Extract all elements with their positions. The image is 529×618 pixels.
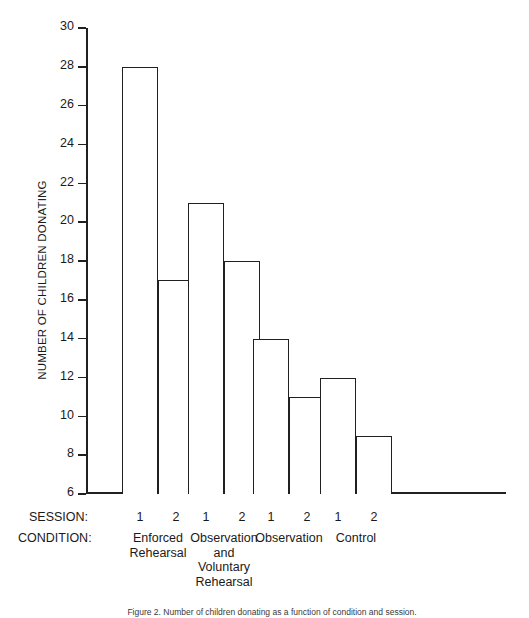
bar <box>356 436 392 494</box>
condition-label-line: and <box>164 546 284 561</box>
y-axis-tick: 16 <box>78 299 86 300</box>
y-axis-tick-label: 24 <box>60 136 74 150</box>
y-axis-tick-label: 10 <box>60 408 74 422</box>
session-number: 1 <box>194 510 218 524</box>
session-number: 2 <box>295 510 319 524</box>
y-axis-tick: 20 <box>78 221 86 222</box>
y-axis-tick-label: 26 <box>60 97 74 111</box>
x-axis-label-block: SESSION: CONDITION: 12121212 EnforcedReh… <box>0 502 529 602</box>
y-axis-tick-label: 16 <box>60 291 74 305</box>
y-axis-tick-label: 14 <box>60 330 74 344</box>
session-number: 2 <box>164 510 188 524</box>
y-axis-tick-label: 6 <box>67 485 74 499</box>
y-axis-tick: 26 <box>78 105 86 106</box>
session-number: 2 <box>230 510 254 524</box>
y-axis-tick: 6 <box>78 493 86 494</box>
y-axis-title: NUMBER OF CHILDREN DONATING <box>36 120 48 440</box>
y-axis-tick: 24 <box>78 144 86 145</box>
y-axis-tick-label: 18 <box>60 252 74 266</box>
figure-caption: Figure 2. Number of children donating as… <box>62 607 482 618</box>
figure-bar-chart: NUMBER OF CHILDREN DONATING 302826242220… <box>0 0 529 618</box>
condition-label: Control <box>296 531 416 546</box>
bar <box>320 378 356 495</box>
condition-row-key: CONDITION: <box>18 531 92 545</box>
condition-label-line: Control <box>296 531 416 546</box>
y-axis-line <box>86 28 88 494</box>
y-axis-tick: 12 <box>78 377 86 378</box>
condition-label-line: Voluntary <box>164 560 284 575</box>
plot-area: 302826242220181614121086 <box>86 28 506 494</box>
session-row-key: SESSION: <box>29 510 88 524</box>
session-number: 1 <box>326 510 350 524</box>
y-axis-tick-label: 22 <box>60 175 74 189</box>
y-axis-tick: 14 <box>78 338 86 339</box>
bar <box>253 339 289 494</box>
condition-label-line: Rehearsal <box>164 575 284 590</box>
y-axis-tick: 30 <box>78 27 86 28</box>
y-axis-tick-label: 12 <box>60 369 74 383</box>
y-axis-tick-label: 8 <box>67 446 74 460</box>
y-axis-tick: 22 <box>78 183 86 184</box>
y-axis-tick-label: 20 <box>60 213 74 227</box>
session-number: 1 <box>259 510 283 524</box>
session-number: 1 <box>128 510 152 524</box>
y-axis-tick: 28 <box>78 66 86 67</box>
y-axis-tick-label: 28 <box>60 58 74 72</box>
y-axis-tick-label: 30 <box>60 19 74 33</box>
y-axis-tick: 8 <box>78 454 86 455</box>
y-axis-tick: 10 <box>78 416 86 417</box>
bar <box>122 67 158 494</box>
session-number: 2 <box>362 510 386 524</box>
bar <box>188 203 224 494</box>
y-axis-tick: 18 <box>78 260 86 261</box>
